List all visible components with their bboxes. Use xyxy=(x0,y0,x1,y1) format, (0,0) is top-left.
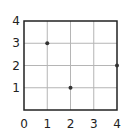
x-axis-tick-labels: 01234 xyxy=(20,117,121,131)
y-axis-tick-labels: 1234 xyxy=(12,14,20,95)
x-tick-label: 4 xyxy=(113,117,121,131)
coordinate-grid-chart: 01234 1234 xyxy=(0,0,129,136)
grid-lines xyxy=(24,21,117,110)
y-tick-label: 2 xyxy=(12,59,20,73)
y-tick-label: 4 xyxy=(12,14,20,28)
x-tick-label: 3 xyxy=(90,117,98,131)
x-tick-label: 0 xyxy=(20,117,28,131)
x-tick-label: 2 xyxy=(67,117,75,131)
data-point xyxy=(69,86,73,90)
x-tick-label: 1 xyxy=(43,117,51,131)
y-tick-label: 1 xyxy=(12,81,20,95)
y-tick-label: 3 xyxy=(12,36,20,50)
data-point xyxy=(45,41,49,45)
data-point xyxy=(115,64,119,68)
